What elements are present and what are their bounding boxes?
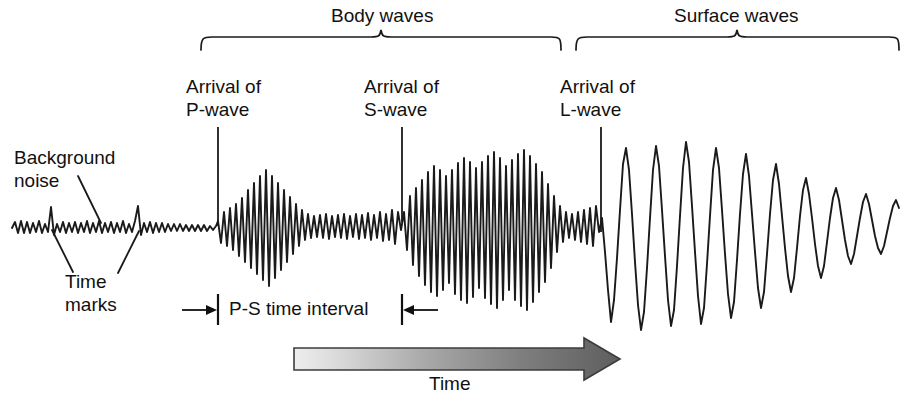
- arrival-label-s-wave-line2: S-wave: [364, 100, 427, 121]
- time-marks-label-line1: Time: [65, 272, 107, 293]
- ps-interval-label: P-S time interval: [229, 299, 368, 320]
- bracket-label-surface-waves: Surface waves: [674, 6, 799, 27]
- seismogram-svg: [0, 0, 912, 399]
- arrival-label-p-wave-line2: P-wave: [186, 100, 249, 121]
- time-axis-label: Time: [429, 374, 471, 395]
- time-marks-label-line2: marks: [65, 295, 117, 316]
- arrival-label-p-wave-line1: Arrival of: [186, 77, 261, 98]
- leader-time-marks-right: [118, 231, 139, 273]
- bracket-label-body-waves: Body waves: [331, 6, 433, 27]
- leader-background-noise: [78, 176, 101, 223]
- seismogram-trace: [12, 142, 899, 330]
- background-noise-label-line2: noise: [14, 171, 59, 192]
- arrival-label-l-wave-line1: Arrival of: [560, 77, 635, 98]
- leader-time-marks-left: [52, 230, 73, 272]
- ps-interval-arrow-left-head: [206, 305, 217, 315]
- ps-interval-arrow-right-head: [403, 305, 414, 315]
- bracket-body-waves: [201, 30, 561, 50]
- bracket-surface-waves: [576, 30, 899, 50]
- background-noise-label-line1: Background: [14, 148, 115, 169]
- seismogram-figure: Body waves Surface waves Arrival of P-wa…: [0, 0, 912, 399]
- arrival-label-l-wave-line2: L-wave: [560, 100, 621, 121]
- arrival-label-s-wave-line1: Arrival of: [364, 77, 439, 98]
